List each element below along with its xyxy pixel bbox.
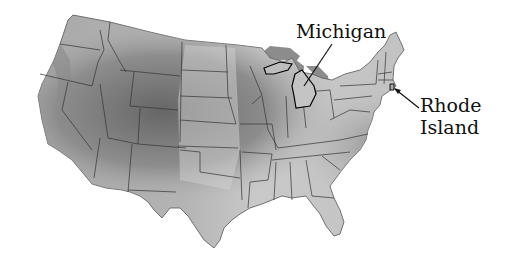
rhode-island-label-line2: Island: [420, 116, 481, 138]
rhode-island-label-line1: Rhode: [420, 94, 481, 116]
rhode-island-arrow: [394, 88, 419, 108]
rhode-island-state: [390, 84, 394, 90]
rhode-island-label: Rhode Island: [420, 94, 481, 138]
us-relief-map: Michigan Rhode Island: [0, 0, 506, 264]
michigan-label: Michigan: [296, 20, 386, 42]
